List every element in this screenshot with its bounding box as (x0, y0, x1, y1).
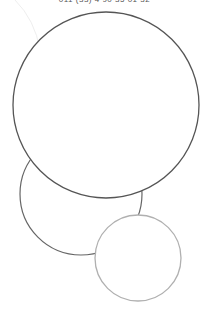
circles-graphic (0, 0, 209, 309)
small-circle (95, 215, 181, 301)
faint-arc (15, 0, 40, 50)
large-circle (13, 12, 199, 198)
